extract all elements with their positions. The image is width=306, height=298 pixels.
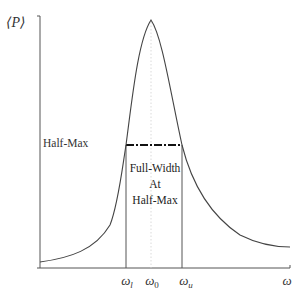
tick-subscript: 0 [154, 280, 159, 290]
tick-subscript: l [130, 280, 133, 290]
fwhm-line-2: At [128, 176, 182, 192]
tick-subscript: u [188, 280, 193, 290]
x-axis-label: ω [282, 273, 291, 289]
y-axis-label: ⟨P⟩ [6, 14, 25, 31]
tick-omega-center: ω0 [145, 273, 159, 290]
tick-omega-upper: ωu [179, 273, 193, 290]
fwhm-line-3: Half-Max [128, 192, 182, 208]
tick-symbol: ω [121, 273, 130, 288]
fwhm-annotation: Full-Width At Half-Max [128, 160, 182, 208]
diagram-canvas [0, 0, 306, 298]
half-max-label: Half-Max [43, 137, 88, 149]
tick-symbol: ω [145, 273, 154, 288]
fwhm-line-1: Full-Width [128, 160, 182, 176]
tick-symbol: ω [179, 273, 188, 288]
tick-omega-lower: ωl [121, 273, 133, 290]
